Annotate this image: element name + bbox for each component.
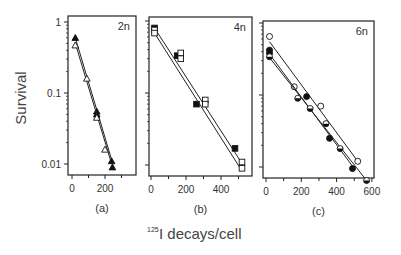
data-point (349, 166, 355, 172)
fit-line (270, 42, 358, 162)
data-point (239, 165, 245, 171)
data-point (232, 146, 238, 152)
data-point (109, 164, 116, 170)
panel-letter: (a) (95, 202, 108, 214)
y-axis-ticks (259, 23, 263, 167)
y-axis-ticks (64, 22, 68, 164)
fit-line (75, 43, 110, 161)
panel-letter: (c) (312, 205, 325, 217)
data-point (152, 30, 158, 36)
ploidy-label: 4n (234, 21, 246, 33)
x-tick-label: 200 (293, 186, 310, 197)
x-tick-label: 400 (213, 184, 230, 195)
data-point (108, 158, 115, 164)
data-point (355, 158, 361, 164)
fit-line (155, 33, 241, 168)
x-axis-ticks (72, 175, 122, 179)
data-point (202, 101, 208, 107)
y-axis-ticks (145, 21, 149, 165)
fit-line (155, 28, 243, 163)
data-point (267, 33, 273, 39)
ploidy-label: 2n (118, 20, 130, 32)
x-axis-title-text: I decays/cell (159, 225, 242, 242)
x-tick-label: 400 (328, 186, 345, 197)
x-tick-label: 200 (178, 184, 195, 195)
series-square-filled (152, 25, 242, 163)
x-tick-label: 0 (148, 184, 154, 195)
series-triangle-open (72, 42, 111, 161)
data-point (318, 103, 324, 109)
series-circle-open (267, 33, 361, 164)
panel-letter: (b) (194, 203, 207, 215)
series-circle-half (267, 54, 370, 184)
x-tick-label: 200 (97, 183, 114, 194)
y-tick-label: 0.01 (42, 159, 62, 170)
data-point (239, 159, 245, 165)
x-tick-label: 0 (263, 186, 269, 197)
y-axis-title: Survival (12, 71, 29, 124)
x-axis-ticks (266, 178, 372, 182)
panel-1: 10.10.0102002n(a) (42, 16, 136, 214)
data-point (304, 94, 310, 100)
fit-line (75, 38, 112, 163)
series-square-open (152, 27, 245, 171)
x-tick-label: 0 (69, 183, 75, 194)
y-tick-label: 1 (55, 17, 61, 28)
x-axis-title: 125 I decays/cell (147, 225, 242, 242)
data-point (178, 56, 184, 62)
x-axis-ticks (151, 176, 239, 180)
panel-3: 02004006006n(c) (259, 21, 381, 217)
survival-figure: 10.10.0102002n(a)02004004n(b)02004006006… (0, 0, 401, 255)
fit-line (270, 58, 367, 181)
plot-frame (263, 21, 374, 178)
x-tick-label: 600 (364, 186, 381, 197)
data-point (72, 34, 79, 40)
panel-2: 02004004n(b) (145, 17, 252, 215)
plot-frame (149, 17, 252, 176)
data-point (84, 75, 91, 81)
ploidy-label: 6n (356, 25, 368, 37)
y-tick-label: 0.1 (47, 88, 61, 99)
x-axis-title-superscript: 125 (147, 226, 159, 233)
data-point (178, 50, 184, 56)
